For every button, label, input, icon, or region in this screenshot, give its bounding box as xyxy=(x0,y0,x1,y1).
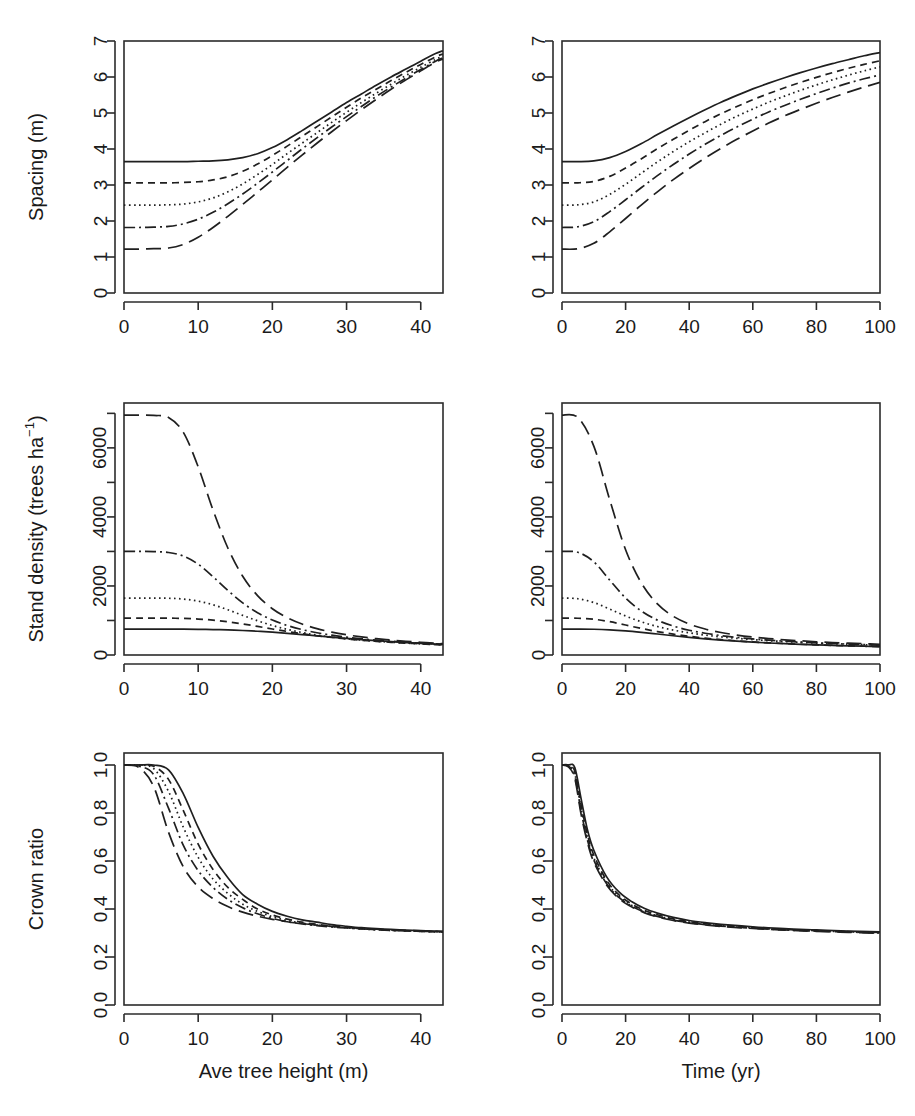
y-tick-label: 0.4 xyxy=(528,895,549,922)
x-axis-title-ave-tree-height: Ave tree height (m) xyxy=(199,1060,369,1082)
x-tick-label: 40 xyxy=(679,316,700,337)
y-tick-label: 6 xyxy=(528,72,549,83)
x-tick-label: 20 xyxy=(262,678,283,699)
y-axis-title-stand-density: Stand density (trees ha−1) xyxy=(22,415,48,642)
y-tick-label: 2 xyxy=(90,216,111,227)
x-tick-label: 30 xyxy=(336,678,357,699)
y-tick-label: 0 xyxy=(90,650,111,661)
y-tick-label: 1.0 xyxy=(90,752,111,778)
y-tick-label: 0 xyxy=(528,650,549,661)
x-tick-label: 0 xyxy=(119,678,130,699)
x-tick-label: 30 xyxy=(336,1028,357,1049)
y-tick-label: 1.0 xyxy=(528,752,549,778)
y-tick-label: 4000 xyxy=(90,496,111,538)
y-tick-label: 7 xyxy=(528,36,549,47)
x-tick-label: 100 xyxy=(864,316,896,337)
x-tick-label: 40 xyxy=(679,678,700,699)
y-tick-label: 7 xyxy=(90,36,111,47)
y-tick-label: 0.6 xyxy=(90,848,111,874)
x-tick-label: 60 xyxy=(742,678,763,699)
y-tick-label: 0.2 xyxy=(528,944,549,970)
multi-panel-figure: 01020304001234567 02040608010001234567 0… xyxy=(0,0,915,1116)
y-tick-label: 2000 xyxy=(528,565,549,607)
y-tick-label: 0 xyxy=(90,288,111,299)
x-tick-label: 100 xyxy=(864,1028,896,1049)
x-tick-label: 0 xyxy=(557,1028,568,1049)
x-tick-label: 80 xyxy=(806,678,827,699)
x-tick-label: 40 xyxy=(679,1028,700,1049)
x-tick-label: 0 xyxy=(119,316,130,337)
x-tick-label: 60 xyxy=(742,1028,763,1049)
y-tick-label: 6000 xyxy=(90,427,111,469)
x-tick-label: 10 xyxy=(188,1028,209,1049)
x-tick-label: 10 xyxy=(188,678,209,699)
y-tick-label: 0.8 xyxy=(528,800,549,826)
x-tick-label: 0 xyxy=(557,678,568,699)
y-axis-title-spacing: Spacing (m) xyxy=(25,113,47,221)
x-tick-label: 20 xyxy=(262,316,283,337)
figure-background xyxy=(0,0,915,1116)
y-tick-label: 3 xyxy=(528,180,549,191)
y-tick-label: 5 xyxy=(528,108,549,119)
x-tick-label: 40 xyxy=(410,678,431,699)
x-tick-label: 30 xyxy=(336,316,357,337)
y-tick-label: 5 xyxy=(90,108,111,119)
y-tick-label: 6 xyxy=(90,72,111,83)
x-tick-label: 0 xyxy=(557,316,568,337)
x-tick-label: 20 xyxy=(615,316,636,337)
y-tick-label: 4000 xyxy=(528,496,549,538)
y-tick-label: 0.0 xyxy=(90,992,111,1018)
x-tick-label: 10 xyxy=(188,316,209,337)
y-tick-label: 0.4 xyxy=(90,895,111,922)
y-tick-label: 6000 xyxy=(528,427,549,469)
y-tick-label: 4 xyxy=(528,143,549,154)
x-tick-label: 20 xyxy=(615,1028,636,1049)
x-tick-label: 40 xyxy=(410,316,431,337)
y-tick-label: 4 xyxy=(90,143,111,154)
y-tick-label: 3 xyxy=(90,180,111,191)
y-axis-title-crown-ratio: Crown ratio xyxy=(25,828,47,930)
y-tick-label: 0.8 xyxy=(90,800,111,826)
x-tick-label: 60 xyxy=(742,316,763,337)
y-tick-label: 2000 xyxy=(90,565,111,607)
y-tick-label: 0.2 xyxy=(90,944,111,970)
y-tick-label: 0 xyxy=(528,288,549,299)
x-tick-label: 100 xyxy=(864,678,896,699)
y-tick-label: 0.0 xyxy=(528,992,549,1018)
y-tick-label: 1 xyxy=(90,252,111,263)
x-tick-label: 20 xyxy=(262,1028,283,1049)
y-tick-label: 1 xyxy=(528,252,549,263)
y-tick-label: 2 xyxy=(528,216,549,227)
x-tick-label: 0 xyxy=(119,1028,130,1049)
y-tick-label: 0.6 xyxy=(528,848,549,874)
x-tick-label: 40 xyxy=(410,1028,431,1049)
x-tick-label: 80 xyxy=(806,1028,827,1049)
x-tick-label: 20 xyxy=(615,678,636,699)
x-tick-label: 80 xyxy=(806,316,827,337)
x-axis-title-time: Time (yr) xyxy=(681,1060,760,1082)
